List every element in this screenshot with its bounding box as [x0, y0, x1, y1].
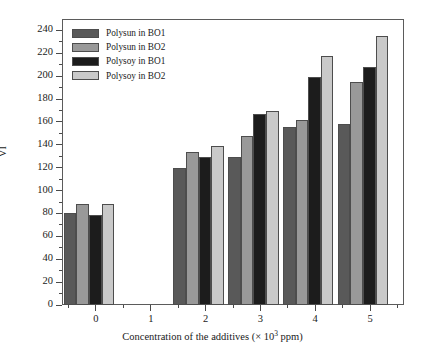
y-axis-tick-label: 100 [19, 185, 53, 196]
x-axis-tick [315, 305, 316, 311]
x-axis-tick [205, 305, 206, 311]
legend-item[interactable]: Polysun in BO1 [72, 26, 202, 40]
x-axis-minor-tick [68, 305, 69, 308]
bar [211, 146, 224, 305]
x-axis-tick [370, 305, 371, 311]
x-axis-minor-tick [178, 305, 179, 308]
legend-item[interactable]: Polysoy in BO2 [72, 69, 202, 83]
bar [363, 67, 376, 305]
bar [338, 124, 351, 305]
y-axis-tick-label: 220 [19, 47, 53, 58]
x-axis-tick-label: 2 [191, 313, 221, 324]
bar [308, 77, 321, 305]
legend-item-label: Polysun in BO2 [106, 42, 165, 52]
x-axis-minor-tick [123, 305, 124, 308]
bar [199, 157, 212, 305]
bar [64, 213, 77, 305]
y-axis-tick-label: 240 [19, 24, 53, 35]
x-axis-title-prefix: Concentration of the additives (× 10 [122, 331, 274, 342]
x-axis-tick-label: 1 [136, 313, 166, 324]
legend-item-label: Polysoy in BO1 [106, 56, 165, 66]
bar [89, 215, 102, 305]
x-axis-minor-tick [397, 305, 398, 308]
x-axis-tick-label: 5 [355, 313, 385, 324]
x-axis-minor-tick [342, 305, 343, 308]
y-axis-tick-label: 0 [19, 299, 53, 310]
y-axis-tick-label: 200 [19, 70, 53, 81]
bar [102, 204, 115, 305]
x-axis-tick [260, 305, 261, 311]
y-axis-tick-label: 120 [19, 162, 53, 173]
y-axis-tick-label: 40 [19, 253, 53, 264]
bar-chart-figure: VI 020406080100120140160180200220240 012… [0, 0, 425, 360]
x-axis-tick [150, 305, 151, 311]
legend-item-label: Polysoy in BO2 [106, 71, 165, 81]
legend-swatch-icon [72, 29, 99, 38]
bar [241, 136, 254, 305]
x-axis-tick-label: 0 [81, 313, 111, 324]
legend-item[interactable]: Polysoy in BO1 [72, 54, 202, 68]
bar [186, 152, 199, 305]
bar [283, 127, 296, 305]
y-axis-tick-label: 20 [19, 276, 53, 287]
legend-swatch-icon [72, 43, 99, 52]
bar [173, 168, 186, 305]
y-axis-tick-label: 140 [19, 139, 53, 150]
bar [76, 204, 89, 305]
bar [376, 36, 389, 305]
x-axis-tick-label: 4 [300, 313, 330, 324]
y-axis-tick-label: 180 [19, 93, 53, 104]
bar [296, 120, 309, 305]
y-axis-tick-label: 60 [19, 230, 53, 241]
y-axis-tick-label: 80 [19, 207, 53, 218]
legend-item-label: Polysun in BO1 [106, 28, 165, 38]
y-axis-tick-label: 160 [19, 116, 53, 127]
bar [228, 157, 241, 305]
chart-legend: Polysun in BO1Polysun in BO2Polysoy in B… [72, 26, 202, 83]
x-axis-tick-label: 3 [245, 313, 275, 324]
x-axis-minor-tick [287, 305, 288, 308]
bar [350, 82, 363, 305]
x-axis-minor-tick [233, 305, 234, 308]
x-axis-tick [95, 305, 96, 311]
bar [266, 111, 279, 305]
bar [253, 114, 266, 305]
legend-item[interactable]: Polysun in BO2 [72, 40, 202, 54]
x-axis-title: Concentration of the additives (× 103 pp… [0, 331, 425, 342]
legend-swatch-icon [72, 57, 99, 66]
y-axis-title: VI [0, 122, 8, 182]
legend-swatch-icon [72, 71, 99, 80]
x-axis-title-suffix: ppm) [278, 331, 303, 342]
bar [321, 56, 334, 305]
